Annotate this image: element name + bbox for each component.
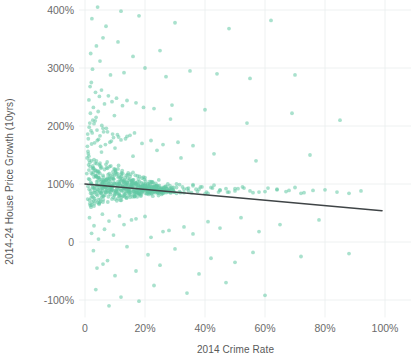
y-tick-label: -100% [18, 294, 74, 306]
scatter-point [245, 121, 249, 125]
scatter-point [94, 288, 98, 292]
scatter-point [115, 96, 119, 100]
scatter-point [87, 98, 91, 102]
y-tick-label: 300% [18, 62, 74, 74]
scatter-point [179, 156, 183, 160]
scatter-point [117, 182, 121, 186]
x-tick-label: 80% [314, 322, 335, 334]
scatter-point [92, 249, 96, 253]
scatter-point [98, 59, 102, 63]
scatter-point [275, 187, 279, 191]
scatter-point [90, 142, 94, 146]
scatter-point [161, 143, 165, 147]
scatter-point [111, 188, 115, 192]
scatter-point [107, 94, 111, 98]
scatter-point [170, 103, 174, 107]
scatter-point [293, 73, 297, 77]
scatter-point [224, 281, 228, 285]
scatter-point [263, 293, 267, 297]
scatter-point [90, 192, 94, 196]
scatter-point [185, 291, 189, 295]
scatter-point [143, 177, 147, 181]
scatter-point [257, 230, 261, 234]
scatter-point [94, 90, 98, 94]
scatter-point [106, 200, 110, 204]
scatter-point [95, 176, 99, 180]
scatter-point [97, 137, 101, 141]
scatter-point [152, 107, 156, 111]
scatter-point [129, 193, 133, 197]
scatter-point [347, 191, 351, 195]
scatter-point [218, 226, 222, 230]
scatter-point [137, 299, 141, 303]
scatter-point [99, 166, 103, 170]
scatter-point [104, 126, 108, 130]
scatter-point [263, 190, 267, 194]
scatter-point [92, 199, 96, 203]
scatter-point [134, 173, 138, 177]
scatter-point [359, 189, 363, 193]
scatter-point [278, 223, 282, 227]
scatter-point [113, 197, 117, 201]
scatter-point [103, 227, 107, 231]
scatter-point [93, 186, 97, 190]
scatter-point [233, 260, 237, 264]
scatter-point [89, 111, 93, 115]
scatter-point [89, 81, 93, 85]
scatter-point [131, 154, 135, 158]
scatter-point [211, 186, 215, 190]
y-tick-label: 100% [18, 178, 74, 190]
scatter-point [293, 186, 297, 190]
scatter-point [95, 159, 99, 163]
scatter-point [119, 172, 123, 176]
scatter-point [170, 187, 174, 191]
y-axis-title: 2014-24 House Price Growth (10yrs) [0, 0, 18, 363]
scatter-point [161, 230, 165, 234]
scatter-point [157, 178, 161, 182]
scatter-point [96, 5, 100, 9]
y-axis-tick-labels: 400%300%200%100%0-100% [18, 0, 74, 363]
scatter-point [191, 232, 195, 236]
scatter-point [125, 245, 129, 249]
scatter-point [137, 14, 141, 18]
scatter-point [242, 186, 246, 190]
scatter-point [113, 114, 117, 118]
scatter-point [112, 233, 116, 237]
scatter-point [109, 73, 113, 77]
scatter-point [100, 191, 104, 195]
scatter-point [269, 19, 273, 23]
scatter-point [119, 295, 123, 299]
scatter-point [110, 139, 114, 143]
scatter-point [173, 247, 177, 251]
scatter-point [215, 72, 219, 76]
scatter-point [212, 152, 216, 156]
scatter-point [89, 52, 93, 56]
scatter-point [101, 200, 105, 204]
scatter-point [87, 158, 91, 162]
scatter-point [105, 160, 109, 164]
scatter-point [248, 77, 252, 81]
scatter-point [254, 159, 258, 163]
scatter-point [191, 184, 195, 188]
x-axis-title: 2014 Crime Rate [60, 344, 411, 355]
scatter-point [287, 188, 291, 192]
scatter-point [98, 95, 102, 99]
scatter-point [97, 237, 101, 241]
scatter-point [236, 187, 240, 191]
scatter-point [138, 175, 142, 179]
x-tick-label: 40% [194, 322, 215, 334]
scatter-point [99, 144, 103, 148]
scatter-point [167, 229, 171, 233]
scatter-point [101, 212, 105, 216]
scatter-point [91, 164, 95, 168]
scatter-chart-figure: 400%300%200%100%0-100% 020%40%60%80%100%… [0, 0, 411, 363]
scatter-point [308, 153, 312, 157]
x-tick-label: 60% [254, 322, 275, 334]
scatter-point [266, 186, 270, 190]
scatter-point [109, 164, 113, 168]
scatter-point [233, 189, 237, 193]
scatter-point [92, 204, 96, 208]
scatter-point [92, 224, 96, 228]
scatter-point [142, 106, 146, 110]
scatter-point [87, 177, 91, 181]
